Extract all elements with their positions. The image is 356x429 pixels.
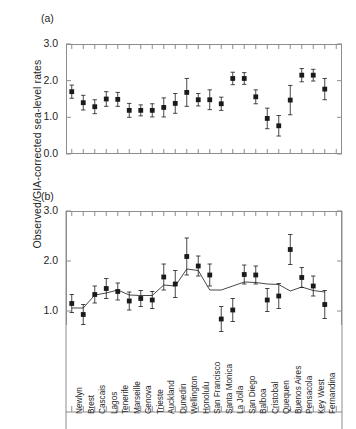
x-axis-tick-label: San Diego	[248, 376, 257, 414]
panel-a-marker	[207, 97, 212, 102]
panel-a-datapoint	[138, 105, 143, 116]
panel-a-datapoint	[127, 103, 132, 117]
panel-a-datapoint	[322, 78, 327, 99]
panel-a-ytick-label: 2.0	[30, 74, 58, 86]
panel-a-datapoint	[196, 94, 201, 106]
x-axis-tick-label: Santa Monica	[225, 364, 234, 414]
panel-b-marker	[311, 284, 316, 289]
x-axis-tick-label: Wellington	[190, 376, 199, 414]
x-axis-tick-label: Auckland	[167, 380, 176, 414]
panel-b-datapoint	[207, 264, 212, 286]
panel-b-marker	[219, 317, 224, 322]
panel-a-marker	[92, 104, 97, 109]
panel-b-datapoint	[69, 295, 74, 313]
panel-b-marker	[253, 273, 258, 278]
panel-b-marker	[92, 292, 97, 297]
panel-a-datapoint	[161, 98, 166, 117]
panel-a-datapoint	[92, 100, 97, 114]
panel-b-ytick-label: 1.0	[30, 304, 58, 316]
panel-b-marker	[69, 301, 74, 306]
panel-a-datapoint	[276, 116, 281, 137]
panel-b-marker	[230, 308, 235, 313]
x-axis-tick-label: Marseille	[133, 381, 142, 414]
panel-b-marker	[207, 273, 212, 278]
x-axis-tick-label: Honolulu	[202, 382, 211, 414]
panel-a-marker	[276, 123, 281, 128]
panel-a-marker	[265, 116, 270, 121]
panel-b-marker	[115, 289, 120, 294]
panel-b-marker	[184, 254, 189, 259]
panel-a-datapoint	[230, 72, 235, 84]
x-axis-tick-label: Balboa	[259, 389, 268, 415]
panel-a-marker	[138, 108, 143, 113]
panel-a-datapoint	[311, 69, 316, 81]
panel-b-datapoint	[322, 291, 327, 319]
panel-b-datapoint	[242, 265, 247, 284]
panel-a-marker	[69, 89, 74, 94]
panel-b-marker	[138, 296, 143, 301]
x-axis-tick-label: San Francisco	[213, 362, 222, 414]
panel-a-datapoint	[104, 92, 109, 107]
panel-a-marker	[150, 108, 155, 113]
panel-a-marker	[322, 87, 327, 92]
x-axis-tick-label: Quequen	[282, 380, 291, 414]
panel-b-marker	[299, 275, 304, 280]
panel-b-marker	[173, 282, 178, 287]
panel-a-marker	[299, 73, 304, 78]
panel-b-datapoint	[276, 284, 281, 309]
x-axis-tick-label: Tenerife	[121, 385, 130, 414]
panel-b-marker	[288, 247, 293, 252]
panel-a-marker	[196, 97, 201, 102]
panel-b-ytick-label: 3.0	[30, 204, 58, 216]
x-axis-tick-label: Key West	[317, 379, 326, 414]
panel-a-marker	[127, 108, 132, 113]
panel-b-datapoint	[104, 279, 109, 299]
x-axis-tick-label: Lagos	[110, 392, 119, 414]
panel-b-datapoint	[299, 268, 304, 288]
panel-b-datapoint	[81, 305, 86, 325]
panel-a-datapoint	[69, 85, 74, 98]
panel-b-ytick-label: 2.0	[30, 254, 58, 266]
panel-a-marker	[242, 76, 247, 81]
x-axis-tick-label: Pensacola	[305, 376, 314, 414]
panel-a-marker	[81, 100, 86, 105]
panel-b-datapoint	[219, 307, 224, 332]
panel-b-datapoint	[230, 299, 235, 322]
panel-a-datapoint	[207, 90, 212, 110]
panel-b-marker	[150, 298, 155, 303]
panel-b-datapoint	[115, 283, 120, 300]
panel-a-datapoint	[173, 94, 178, 114]
panel-b-marker	[242, 272, 247, 277]
x-axis-tick-label: Buenos Aires	[294, 366, 303, 414]
panel-a-ytick-label: 0.0	[30, 147, 58, 159]
panel-a-ytick-label: 3.0	[30, 37, 58, 49]
panel-a-datapoint	[242, 73, 247, 85]
panel-b-marker	[276, 294, 281, 299]
panel-a-marker	[184, 90, 189, 95]
panel-a-datapoint	[288, 85, 293, 114]
panel-b-marker	[104, 286, 109, 291]
panel-a-marker	[104, 97, 109, 102]
panel-b-datapoint	[173, 271, 178, 298]
panel-b-datapoint	[311, 276, 316, 296]
panel-b-datapoint	[265, 289, 270, 312]
x-axis-tick-label: Trieste	[156, 389, 165, 414]
panel-b-marker	[322, 302, 327, 307]
panel-a-datapoint	[115, 92, 120, 106]
panel-a-marker	[219, 101, 224, 106]
x-axis-tick-label: La Jolla	[236, 386, 245, 414]
panel-b-marker	[161, 275, 166, 280]
panel-b-marker	[127, 299, 132, 304]
panel-a-marker	[253, 94, 258, 99]
panel-a-marker	[311, 73, 316, 78]
panel-a-marker	[173, 101, 178, 106]
panel-a-datapoint	[150, 104, 155, 117]
panel-b-datapoint	[288, 235, 293, 265]
panel-a-marker	[230, 76, 235, 81]
x-axis-tick-label: Dunedin	[179, 384, 188, 415]
panel-a-marker	[161, 105, 166, 110]
panel-b-marker	[81, 312, 86, 317]
panel-a-ytick-label: 1.0	[30, 110, 58, 122]
panel-b-datapoint	[138, 291, 143, 307]
x-axis-tick-label: Fernandina	[328, 373, 337, 414]
